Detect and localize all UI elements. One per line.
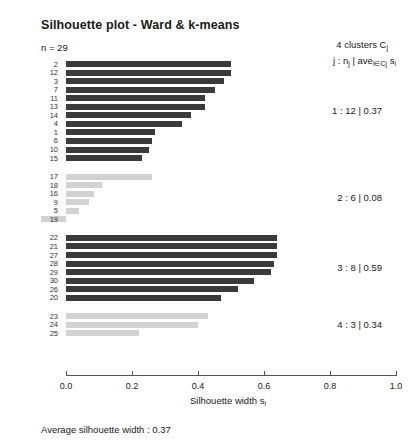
silhouette-bar <box>66 261 274 267</box>
observation-label: 3 <box>32 78 58 85</box>
observation-label: 25 <box>32 330 58 337</box>
observation-label: 30 <box>32 277 58 284</box>
observation-label: 13 <box>32 103 58 110</box>
silhouette-bar <box>66 155 142 161</box>
silhouette-bar <box>66 147 149 153</box>
x-axis-line <box>66 375 396 376</box>
silhouette-bar <box>66 138 152 144</box>
silhouette-bar <box>66 330 139 336</box>
observation-label: 4 <box>32 120 58 127</box>
observation-label: 6 <box>32 137 58 144</box>
observation-label: 23 <box>32 313 58 320</box>
observation-label: 22 <box>32 234 58 241</box>
silhouette-bar <box>66 112 191 118</box>
silhouette-bar <box>66 78 224 84</box>
silhouette-bar <box>66 199 89 205</box>
silhouette-bar <box>66 70 231 76</box>
observation-label: 15 <box>32 155 58 162</box>
silhouette-bar <box>66 252 277 258</box>
silhouette-bar <box>66 174 152 180</box>
observation-label: 18 <box>32 182 58 189</box>
x-axis-tick <box>330 371 331 376</box>
observation-label: 11 <box>32 95 58 102</box>
x-axis-tick-label: 0.6 <box>244 381 284 391</box>
silhouette-bar <box>66 121 182 127</box>
silhouette-bar <box>66 243 277 249</box>
observation-label: 26 <box>32 286 58 293</box>
silhouette-bar <box>66 313 208 319</box>
x-axis-tick <box>132 371 133 376</box>
x-axis-title-text: Silhouette width s <box>190 395 264 406</box>
x-axis-tick <box>396 371 397 376</box>
observation-label: 19 <box>32 216 58 223</box>
observation-label: 20 <box>32 294 58 301</box>
silhouette-bar <box>66 278 254 284</box>
observation-label: 29 <box>32 269 58 276</box>
observation-label: 12 <box>32 69 58 76</box>
silhouette-bar <box>66 182 102 188</box>
observation-label: 21 <box>32 243 58 250</box>
cluster-annotation: 4 : 3 | 0.34 <box>337 319 382 330</box>
silhouette-bar <box>66 208 79 214</box>
x-axis-tick <box>264 371 265 376</box>
x-axis-title: Silhouette width si <box>0 395 412 407</box>
silhouette-bar <box>66 104 205 110</box>
silhouette-bar <box>66 322 198 328</box>
silhouette-bar <box>66 191 94 197</box>
x-axis-tick <box>66 371 67 376</box>
observation-label: 27 <box>32 252 58 259</box>
observation-label: 9 <box>32 199 58 206</box>
x-axis-tick-label: 0.4 <box>178 381 218 391</box>
cluster-annotation: 1 : 12 | 0.37 <box>332 105 382 116</box>
observation-label: 14 <box>32 112 58 119</box>
silhouette-plot: Silhouette plot - Ward & k-means n = 29 … <box>0 0 412 448</box>
x-axis-title-sub: i <box>264 400 266 407</box>
observation-label: 28 <box>32 260 58 267</box>
silhouette-bar <box>66 286 238 292</box>
observation-label: 1 <box>32 129 58 136</box>
silhouette-bar <box>66 235 277 241</box>
observation-label: 2 <box>32 61 58 68</box>
observation-label: 17 <box>32 173 58 180</box>
x-axis-tick-label: 1.0 <box>376 381 412 391</box>
silhouette-bar <box>66 95 205 101</box>
observation-label: 16 <box>32 190 58 197</box>
cluster-annotation: 2 : 6 | 0.08 <box>337 192 382 203</box>
average-silhouette-width-label: Average silhouette width : 0.37 <box>41 424 171 435</box>
x-axis-tick-label: 0.8 <box>310 381 350 391</box>
x-axis-tick-label: 0.0 <box>46 381 86 391</box>
observation-label: 7 <box>32 86 58 93</box>
silhouette-bar <box>66 61 231 67</box>
observation-label: 24 <box>32 321 58 328</box>
silhouette-bar <box>66 129 155 135</box>
cluster-annotation: 3 : 8 | 0.59 <box>337 262 382 273</box>
silhouette-bar <box>66 295 221 301</box>
x-axis-tick <box>198 371 199 376</box>
observation-label: 5 <box>32 207 58 214</box>
silhouette-bar <box>66 269 271 275</box>
silhouette-bar <box>66 87 215 93</box>
observation-label: 10 <box>32 146 58 153</box>
x-axis-tick-label: 0.2 <box>112 381 152 391</box>
